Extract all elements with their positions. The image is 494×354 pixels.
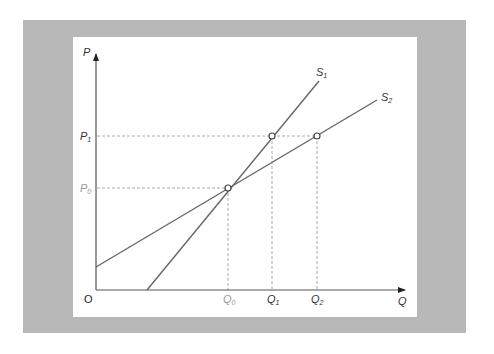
point-e0	[225, 185, 231, 191]
point-s2-p1	[314, 133, 320, 139]
s2-label: S2	[381, 91, 392, 104]
supply-curve-s2	[96, 100, 377, 267]
x-axis-label: Q	[398, 295, 407, 307]
guide-lines	[97, 136, 317, 290]
p0-label: P0	[80, 182, 91, 195]
point-s1-p1	[269, 133, 275, 139]
origin-label: O	[84, 293, 93, 305]
q2-label: Q2	[311, 293, 324, 306]
s1-label: S1	[316, 66, 327, 79]
p1-label: P1	[80, 130, 91, 143]
q1-label: Q1	[267, 293, 280, 306]
q0-label: Q0	[223, 293, 236, 306]
y-axis-label: P	[83, 46, 91, 58]
supply-diagram: P Q O P1 P0 Q0 Q1 Q2 S1 S2	[0, 0, 494, 354]
